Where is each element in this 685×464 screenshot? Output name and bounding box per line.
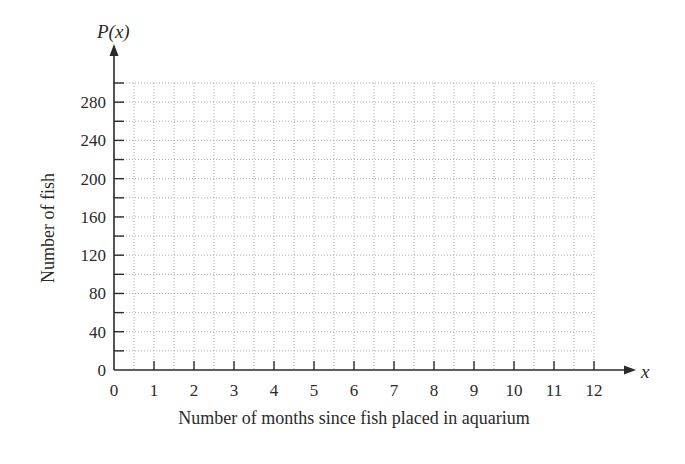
y-tick-label: 200 xyxy=(81,170,107,189)
y-tick-label: 240 xyxy=(81,131,107,150)
y-tick-label: 0 xyxy=(98,361,107,380)
x-tick-label: 4 xyxy=(270,381,279,400)
y-tick-label: 280 xyxy=(81,93,107,112)
y-tick-label: 120 xyxy=(81,246,107,265)
x-axis-variable: x xyxy=(640,361,650,382)
y-tick-labels: 04080120160200240280 xyxy=(81,93,107,380)
y-axis-arrow-icon xyxy=(110,44,119,56)
x-tick-label: 7 xyxy=(390,381,399,400)
y-tick-label: 160 xyxy=(81,208,107,227)
x-tick-label: 6 xyxy=(350,381,359,400)
axes xyxy=(110,44,637,375)
x-tick-label: 10 xyxy=(506,381,523,400)
grid-lines xyxy=(114,83,594,370)
y-tick-label: 40 xyxy=(89,323,106,342)
x-tick-label: 12 xyxy=(586,381,603,400)
x-tick-label: 11 xyxy=(546,381,562,400)
y-tick-label: 80 xyxy=(89,284,106,303)
x-tick-label: 1 xyxy=(150,381,159,400)
x-tick-label: 8 xyxy=(430,381,439,400)
x-tick-label: 0 xyxy=(110,381,119,400)
x-axis-arrow-icon xyxy=(624,366,636,375)
x-tick-labels: 0123456789101112 xyxy=(110,381,603,400)
x-tick-label: 3 xyxy=(230,381,239,400)
x-tick-label: 5 xyxy=(310,381,319,400)
x-tick-label: 9 xyxy=(470,381,479,400)
x-axis-title: Number of months since fish placed in aq… xyxy=(178,408,529,428)
y-axis-variable: P(x) xyxy=(96,21,130,43)
chart-canvas: 0123456789101112 04080120160200240280 x … xyxy=(0,0,685,464)
y-axis-title: Number of fish xyxy=(38,173,58,283)
x-tick-label: 2 xyxy=(190,381,199,400)
